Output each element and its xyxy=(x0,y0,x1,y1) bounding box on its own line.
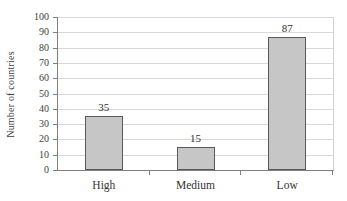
plot-area: 351587 xyxy=(57,17,334,171)
bar-value-label: 87 xyxy=(267,22,307,34)
bar-value-label: 15 xyxy=(176,132,216,144)
y-tick-label: 20 xyxy=(0,133,49,144)
x-category-label-high: High xyxy=(59,179,149,191)
x-category-label-medium: Medium xyxy=(151,179,241,191)
y-tick-label: 80 xyxy=(0,42,49,53)
y-tick-mark xyxy=(53,48,57,49)
x-category-label-low: Low xyxy=(242,179,332,191)
bar-chart: Number of countries 351587 0102030405060… xyxy=(0,0,347,201)
y-tick-mark xyxy=(53,109,57,110)
y-tick-label: 90 xyxy=(0,26,49,37)
x-tick-mark xyxy=(332,171,333,175)
y-tick-mark xyxy=(53,124,57,125)
bar-high xyxy=(85,116,123,170)
y-tick-mark xyxy=(53,155,57,156)
y-tick-label: 0 xyxy=(0,164,49,175)
y-tick-label: 70 xyxy=(0,57,49,68)
y-tick-mark xyxy=(53,139,57,140)
y-tick-label: 40 xyxy=(0,103,49,114)
y-tick-mark xyxy=(53,63,57,64)
y-tick-mark xyxy=(53,94,57,95)
y-tick-mark xyxy=(53,170,57,171)
y-tick-mark xyxy=(53,78,57,79)
bar-medium xyxy=(177,147,215,170)
y-tick-label: 100 xyxy=(0,11,49,22)
y-tick-mark xyxy=(53,32,57,33)
y-tick-label: 50 xyxy=(0,88,49,99)
x-tick-mark xyxy=(240,171,241,175)
y-tick-label: 30 xyxy=(0,118,49,129)
bar-low xyxy=(268,37,306,170)
y-tick-mark xyxy=(53,17,57,18)
y-tick-label: 60 xyxy=(0,72,49,83)
y-tick-label: 10 xyxy=(0,149,49,160)
gridline xyxy=(58,17,333,18)
bar-value-label: 35 xyxy=(84,101,124,113)
x-tick-mark xyxy=(149,171,150,175)
